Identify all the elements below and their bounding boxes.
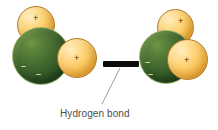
leader-line-stroke <box>102 68 120 104</box>
hydrogen-bond-label: Hydrogen bond <box>60 108 130 119</box>
hydrogen-bond-figure: + – – + + – – + Hydrogen bond <box>0 0 218 130</box>
hydrogen-atom-right-lower <box>167 39 208 80</box>
hydrogen-atom-left-right <box>57 38 97 78</box>
hydrogen-bond-bar <box>103 61 139 67</box>
